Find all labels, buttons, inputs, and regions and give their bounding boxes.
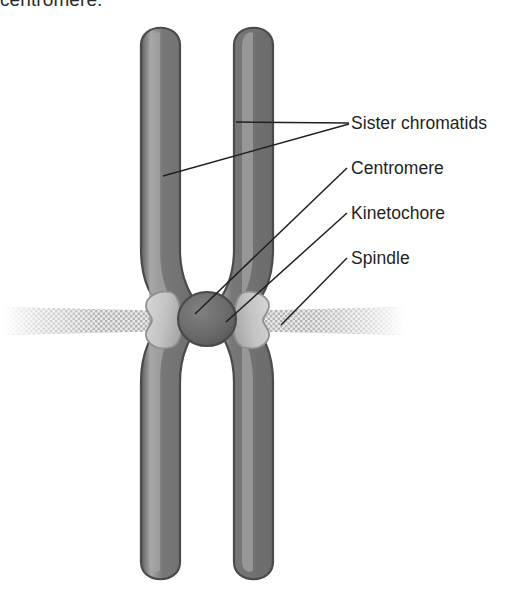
kinetochore-lobe-left <box>146 292 181 349</box>
centromere-disc <box>178 292 236 346</box>
chromosome-figure: centromere. <box>0 0 517 607</box>
label-spindle: Spindle <box>351 248 410 268</box>
label-centromere: Centromere <box>351 158 444 178</box>
label-kinetochore: Kinetochore <box>351 203 445 223</box>
label-sister-chromatids: Sister chromatids <box>351 113 487 133</box>
chromosome-diagram-canvas <box>0 0 517 607</box>
kinetochore-lobe-right <box>234 292 269 349</box>
